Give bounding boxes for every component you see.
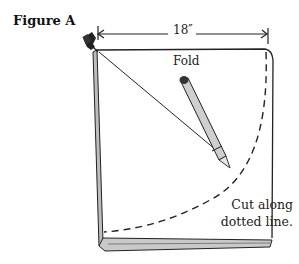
cut-instruction-line2: dotted line. [203, 213, 293, 230]
pushpin-icon [82, 32, 98, 52]
dimension-label: 18″ [170, 23, 196, 37]
cut-instruction-line1: Cut along [203, 196, 293, 213]
fold-label: Fold [173, 54, 199, 68]
pencil-icon [180, 76, 231, 168]
figure-title: Figure A [13, 13, 75, 28]
figure-a-illustration: Figure A 18″ Fold Cut along dotted line. [0, 0, 299, 264]
cut-instruction: Cut along dotted line. [203, 196, 293, 230]
